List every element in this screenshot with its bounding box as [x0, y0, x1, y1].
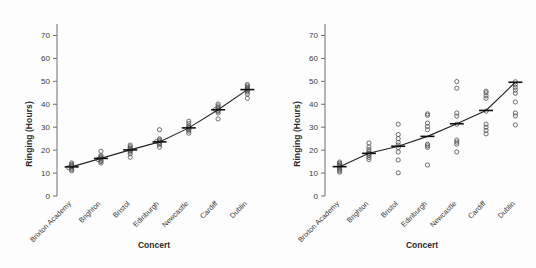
y-tick-label: 0 — [46, 192, 51, 201]
y-tick-label: 70 — [41, 31, 50, 40]
y-tick-label: 30 — [41, 123, 50, 132]
y-tick-label: 50 — [41, 77, 50, 86]
data-point — [396, 122, 400, 126]
plot-area-right: 010203040506070Brixton AcademyBrightonBr… — [268, 0, 536, 268]
x-tick-label: Brighton — [77, 199, 103, 225]
x-tick-label: Brighton — [345, 199, 371, 225]
y-tick-label: 10 — [41, 169, 50, 178]
data-point — [216, 117, 220, 121]
x-tick-label: Brixton Academy — [28, 199, 73, 244]
x-tick-label: Newcastle — [428, 199, 458, 229]
y-tick-label: 60 — [309, 54, 318, 63]
y-tick-label: 50 — [309, 77, 318, 86]
data-point — [396, 171, 400, 175]
data-point — [513, 111, 517, 115]
data-point — [455, 150, 459, 154]
x-tick-label: Cardiff — [466, 198, 488, 220]
data-point — [513, 100, 517, 104]
y-tick-label: 60 — [41, 54, 50, 63]
x-axis-title-left: Concert — [0, 240, 268, 250]
y-tick-label: 70 — [309, 31, 318, 40]
figure-two-panel-scatter: Ringing (Hours) 010203040506070Brixton A… — [0, 0, 536, 268]
data-point — [396, 132, 400, 136]
x-tick-label: Cardiff — [198, 198, 220, 220]
x-tick-label: Edinburgh — [131, 199, 161, 229]
data-point — [157, 128, 161, 132]
plot-area-left: 010203040506070Brixton AcademyBrightonBr… — [0, 0, 268, 268]
y-tick-label: 20 — [309, 146, 318, 155]
data-point — [484, 122, 488, 126]
x-tick-label: Bristol — [111, 199, 132, 220]
x-tick-label: Bristol — [379, 199, 400, 220]
data-point — [455, 86, 459, 90]
data-point — [396, 150, 400, 154]
x-tick-label: Newcastle — [160, 199, 190, 229]
x-axis-title-right: Concert — [268, 240, 536, 250]
y-tick-label: 20 — [41, 146, 50, 155]
data-point — [396, 158, 400, 162]
data-point — [99, 149, 103, 153]
data-point — [455, 79, 459, 83]
data-point — [425, 163, 429, 167]
x-tick-label: Brixton Academy — [296, 199, 341, 244]
trend-line — [72, 90, 248, 167]
data-point — [245, 96, 249, 100]
x-tick-label: Dublin — [228, 199, 249, 220]
x-tick-label: Edinburgh — [399, 199, 429, 229]
y-tick-label: 10 — [309, 169, 318, 178]
x-tick-label: Dublin — [496, 199, 517, 220]
y-tick-label: 40 — [309, 100, 318, 109]
panel-right: Ringing (Hours) 010203040506070Brixton A… — [268, 0, 536, 268]
data-point — [513, 123, 517, 127]
y-tick-label: 40 — [41, 100, 50, 109]
y-tick-label: 0 — [314, 192, 319, 201]
panel-left: Ringing (Hours) 010203040506070Brixton A… — [0, 0, 268, 268]
y-tick-label: 30 — [309, 123, 318, 132]
